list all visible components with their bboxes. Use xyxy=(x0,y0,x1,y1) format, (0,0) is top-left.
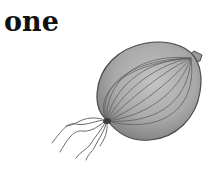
onion-roots xyxy=(52,118,107,160)
onion-body xyxy=(97,42,201,140)
onion-icon xyxy=(0,0,213,170)
